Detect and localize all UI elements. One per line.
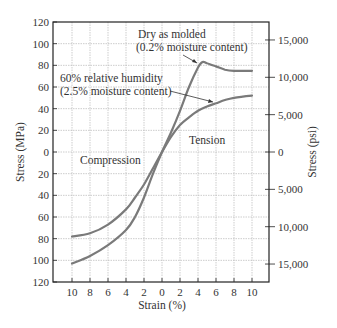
y-left-tick-label: 60 [38,81,50,93]
y-right-tick-label: 10,000 [278,221,309,233]
x-tick-label: 4 [123,286,129,298]
x-tick-label: 4 [195,286,201,298]
x-tick-label: 6 [105,286,111,298]
y-left-tick-label: 60 [38,211,50,223]
x-axis-ticks: 1086420246810 [67,278,259,298]
x-tick-label: 10 [67,286,79,298]
y-left-tick-label: 40 [38,189,50,201]
x-tick-label: 8 [231,286,237,298]
stress-strain-chart: 12010080604020020406080100120 15,00010,0… [0,0,337,328]
humid-annotation-line2: (2.5% moisture content) [60,85,172,98]
humid-arrow-head-icon [208,99,213,103]
dry-arrow-head-icon [192,59,197,63]
right-axis-ticks: 15,00010,0005,00005,00010,00015,000 [265,34,309,270]
y-left-tick-label: 100 [33,254,50,266]
y-right-tick-label: 15,000 [278,258,309,270]
y-axis-right-title: Stress (psi) [306,126,319,178]
y-right-tick-label: 5,000 [278,183,303,195]
y-right-tick-label: 15,000 [278,34,309,46]
dry-annotation-line2: (0.2% moisture content) [136,41,248,54]
y-right-tick-label: 5,000 [278,109,303,121]
y-left-tick-label: 100 [33,38,50,50]
compression-label: Compression [80,154,141,167]
x-tick-label: 10 [247,286,259,298]
y-left-tick-label: 0 [44,146,50,158]
x-tick-label: 8 [87,286,93,298]
y-left-tick-label: 120 [33,16,50,28]
y-left-tick-label: 20 [38,124,50,136]
x-axis-title: Strain (%) [138,299,186,312]
tension-label: Tension [189,134,225,146]
x-tick-label: 2 [177,286,183,298]
y-left-tick-label: 80 [38,233,50,245]
x-tick-label: 6 [213,286,219,298]
dry-annotation-line1: Dry as molded [138,28,206,41]
x-tick-label: 2 [141,286,147,298]
x-tick-label: 0 [159,286,165,298]
y-left-tick-label: 20 [38,168,50,180]
humid-annotation-line1: 60% relative humidity [60,72,163,85]
humid-annotation-arrow [170,91,213,102]
y-right-tick-label: 10,000 [278,71,309,83]
y-left-tick-label: 40 [38,103,50,115]
y-left-tick-label: 80 [38,59,50,71]
y-left-tick-label: 120 [33,276,50,288]
y-axis-left-title: Stress (MPa) [14,122,27,182]
y-right-tick-label: 0 [278,146,284,158]
